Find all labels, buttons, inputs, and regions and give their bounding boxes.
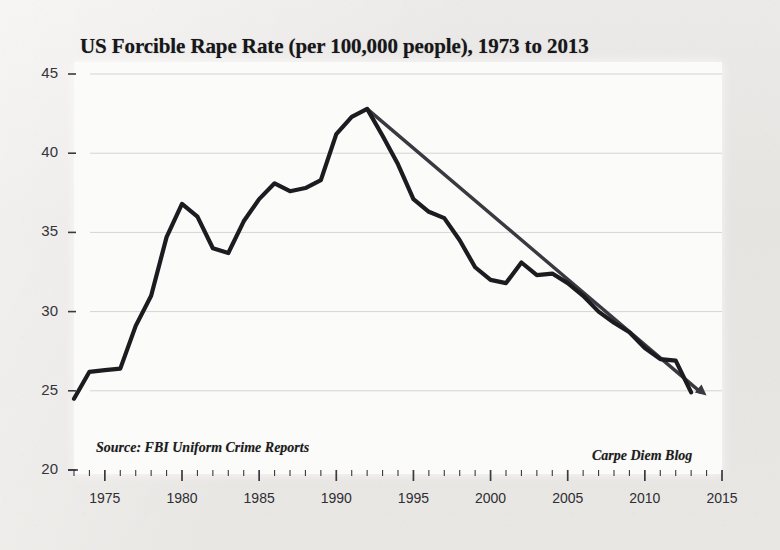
y-tick-label: 30 xyxy=(28,302,58,319)
rape-rate-line-series xyxy=(74,109,691,399)
x-tick-label: 1975 xyxy=(79,490,131,506)
y-tick-label: 40 xyxy=(28,143,58,160)
y-tick-label: 35 xyxy=(28,222,58,239)
chart-page: US Forcible Rape Rate (per 100,000 peopl… xyxy=(0,0,780,550)
trend-line-series xyxy=(367,109,706,396)
y-tick-label: 45 xyxy=(28,64,58,81)
x-tick-label: 2000 xyxy=(465,490,517,506)
x-axis-ticks xyxy=(68,470,722,481)
gridlines xyxy=(90,74,722,391)
y-tick-label: 20 xyxy=(28,460,58,477)
source-annotation: Source: FBI Uniform Crime Reports xyxy=(96,440,309,456)
data-line xyxy=(74,109,691,399)
x-tick-label: 2005 xyxy=(542,490,594,506)
x-tick-label: 1990 xyxy=(310,490,362,506)
y-axis-ticks xyxy=(68,74,76,470)
x-tick-label: 1980 xyxy=(156,490,208,506)
credit-annotation: Carpe Diem Blog xyxy=(592,448,692,464)
x-tick-label: 2015 xyxy=(696,490,748,506)
y-tick-label: 25 xyxy=(28,381,58,398)
x-tick-label: 2010 xyxy=(619,490,671,506)
x-tick-label: 1985 xyxy=(233,490,285,506)
x-tick-label: 1995 xyxy=(387,490,439,506)
chart-canvas xyxy=(0,0,780,550)
